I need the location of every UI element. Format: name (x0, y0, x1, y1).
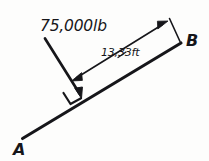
right-angle-marker (64, 93, 82, 104)
force-label: 75,000lb (40, 17, 107, 35)
extension-line-b (170, 19, 181, 42)
dimension-label: 13,33ft (101, 46, 140, 59)
force-vector-arrow (45, 39, 82, 99)
diagram-canvas: 75,000lb 13,33ft A B (0, 0, 209, 161)
point-b-label: B (186, 31, 198, 50)
point-a-label: A (11, 140, 25, 159)
inclined-plane-force-diagram: 75,000lb 13,33ft A B (0, 0, 209, 161)
